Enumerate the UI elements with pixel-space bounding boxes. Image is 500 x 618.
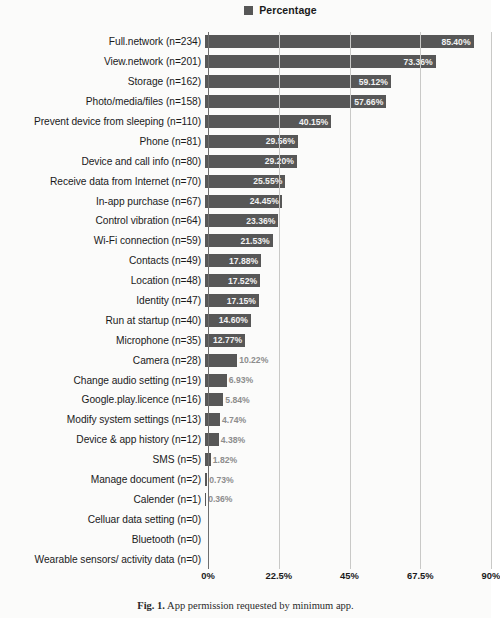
bar-row: Bluetooth (n=0) [0,529,491,549]
bar[interactable]: 10.22% [205,354,237,367]
bar-track: 73.36% [205,52,491,72]
category-label: Location (n=48) [0,275,205,286]
bar[interactable]: 12.77% [205,334,245,347]
bar[interactable]: 29.56% [205,135,298,148]
x-axis-tick-labels: 0%22.5%45%67.5%90% [208,570,491,586]
bar-row: Control vibration (n=64)23.36% [0,211,491,231]
bar-track: 59.12% [205,72,491,92]
bar-track: 29.56% [205,131,491,151]
bar[interactable]: 73.36% [205,55,436,68]
bar[interactable]: 59.12% [205,75,391,88]
bar-row: Device & app history (n=12)4.38% [0,430,491,450]
bar-row: Receive data from Internet (n=70)25.55% [0,171,491,191]
bar-track: 14.60% [205,310,491,330]
legend-label-percentage: Percentage [259,4,317,16]
bar-track: 29.20% [205,151,491,171]
bar-value-label: 12.77% [213,335,245,345]
bar[interactable]: 25.55% [205,175,285,188]
bar-track: 12.77% [205,330,491,350]
category-label: Receive data from Internet (n=70) [0,176,205,187]
bar-rows: Full.network (n=234)85.40%View.network (… [0,32,491,569]
category-label: Device & app history (n=12) [0,434,205,445]
bar-row: Phone (n=81)29.56% [0,131,491,151]
bar[interactable]: 23.36% [205,214,278,227]
category-label: Control vibration (n=64) [0,215,205,226]
bar-track: 5.84% [205,390,491,410]
bar-row: Identity (n=47)17.15% [0,291,491,311]
bar[interactable]: 29.20% [205,155,297,168]
bar-row: View.network (n=201)73.36% [0,52,491,72]
x-tick-label: 45% [340,570,359,581]
bar[interactable]: 17.88% [205,254,261,267]
bar[interactable]: 17.52% [205,274,260,287]
bar-track: 0.36% [205,489,491,509]
bar-row: Change audio setting (n=19)6.93% [0,370,491,390]
bar-track: 17.15% [205,291,491,311]
bar-track: 4.38% [205,430,491,450]
bar[interactable]: 5.84% [205,393,223,406]
bar[interactable]: 14.60% [205,314,251,327]
bar[interactable]: 21.53% [205,234,273,247]
bar-track [205,549,491,569]
bar-value-label: 73.36% [404,57,436,67]
bar-value-label: 29.56% [266,136,298,146]
bar-track: 0.73% [205,470,491,490]
bar-row: Celluar data setting (n=0) [0,509,491,529]
bar[interactable]: 57.66% [205,95,386,108]
bar-row: In-app purchase (n=67)24.45% [0,191,491,211]
bar[interactable]: 17.15% [205,294,259,307]
figure-number: Fig. 1. [137,600,165,611]
x-tick-label: 90% [482,570,500,581]
bar[interactable]: 4.38% [205,433,219,446]
bar-value-label: 29.20% [265,156,297,166]
bar[interactable]: 1.82% [205,453,211,466]
bar-value-label: 6.93% [227,375,253,385]
bar[interactable]: 40.15% [205,115,331,128]
category-label: Prevent device from sleeping (n=110) [0,116,205,127]
bar-track: 21.53% [205,231,491,251]
category-label: Modify system settings (n=13) [0,414,205,425]
x-tick-label: 67.5% [407,570,434,581]
category-label: Celluar data setting (n=0) [0,514,205,525]
category-label: Storage (n=162) [0,76,205,87]
category-label: Bluetooth (n=0) [0,534,205,545]
bar[interactable]: 85.40% [205,35,474,48]
bar-value-label: 0.36% [206,494,232,504]
x-tick-label: 22.5% [265,570,292,581]
category-label: Wi-Fi connection (n=59) [0,235,205,246]
figure-caption: Fig. 1. App permission requested by mini… [0,600,491,618]
category-label: Change audio setting (n=19) [0,375,205,386]
category-label: Contacts (n=49) [0,255,205,266]
bar[interactable]: 6.93% [205,374,227,387]
bar-value-label: 14.60% [219,315,251,325]
bar-row: Google.play.licence (n=16)5.84% [0,390,491,410]
bar[interactable]: 4.74% [205,413,220,426]
bar-row: Microphone (n=35)12.77% [0,330,491,350]
category-label: Run at startup (n=40) [0,315,205,326]
bar-value-label: 25.55% [253,176,285,186]
gridline [491,32,492,569]
bar-row: Full.network (n=234)85.40% [0,32,491,52]
bar[interactable]: 0.36% [205,493,206,506]
bar-value-label: 17.52% [228,276,260,286]
category-label: Wearable sensors/ activity data (n=0) [0,554,205,565]
bar-value-label: 21.53% [241,236,273,246]
bar[interactable]: 0.73% [205,473,207,486]
bar-row: Calender (n=1)0.36% [0,489,491,509]
bar-row: Prevent device from sleeping (n=110)40.1… [0,112,491,132]
category-label: Manage document (n=2) [0,474,205,485]
bar-value-label: 0.73% [207,475,233,485]
bar-value-label: 1.82% [211,455,237,465]
bar-track: 25.55% [205,171,491,191]
bar-track: 40.15% [205,112,491,132]
x-tick-label: 0% [201,570,215,581]
bar[interactable]: 24.45% [205,195,282,208]
bar-value-label: 10.22% [237,355,268,365]
bar-value-label: 5.84% [223,395,249,405]
category-label: In-app purchase (n=67) [0,196,205,207]
bar-value-label: 4.74% [220,415,246,425]
bar-value-label: 17.88% [229,256,261,266]
chart-legend: Percentage [0,4,491,16]
category-label: Google.play.licence (n=16) [0,394,205,405]
